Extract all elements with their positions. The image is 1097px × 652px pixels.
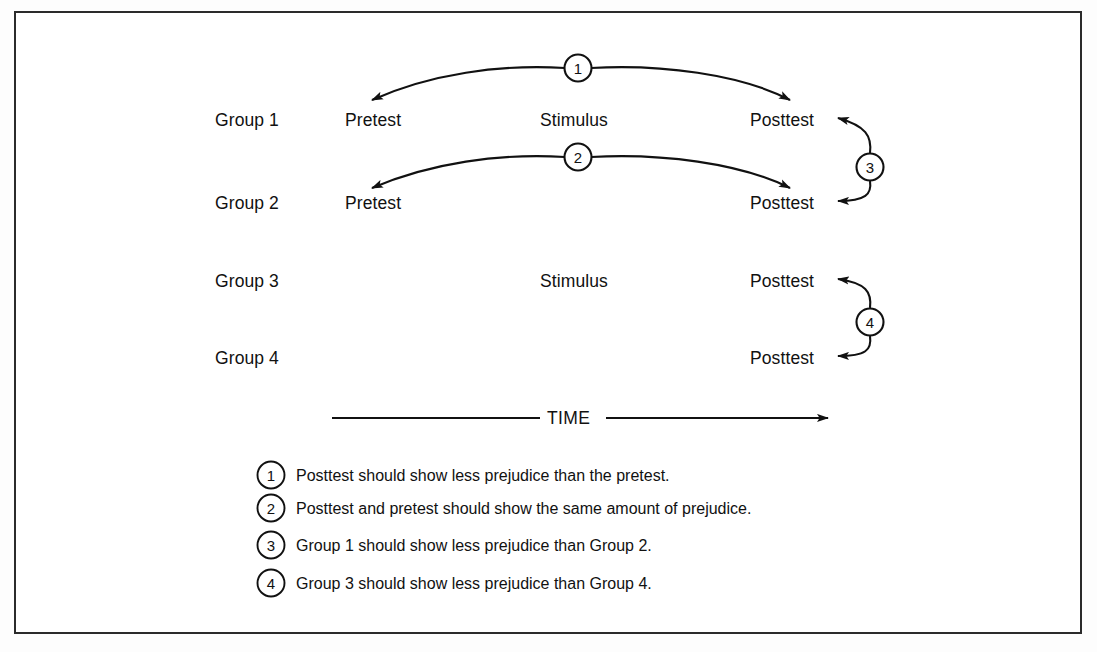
legend-text-1: Posttest should show less prejudice than…: [296, 466, 670, 485]
legend-text-3: Group 1 should show less prejudice than …: [296, 536, 652, 555]
legend-text-4: Group 3 should show less prejudice than …: [296, 574, 652, 593]
time-axis-label: TIME: [547, 408, 590, 428]
cell-group3-stimulus: Stimulus: [540, 271, 608, 291]
cell-group1-posttest: Posttest: [750, 110, 814, 130]
cell-group4-posttest: Posttest: [750, 348, 814, 368]
row-label-group-2: Group 2: [215, 193, 279, 213]
cell-group1-stimulus: Stimulus: [540, 110, 608, 130]
row-label-group-4: Group 4: [215, 348, 279, 368]
cell-group2-pretest: Pretest: [345, 193, 401, 213]
legend-text-2: Posttest and pretest should show the sam…: [296, 499, 751, 518]
row-label-group-1: Group 1: [215, 110, 279, 130]
cell-group2-posttest: Posttest: [750, 193, 814, 213]
figure-root: Group 1 Pretest Stimulus Posttest Group …: [0, 0, 1097, 652]
cell-group3-posttest: Posttest: [750, 271, 814, 291]
row-label-group-3: Group 3: [215, 271, 279, 291]
cell-group1-pretest: Pretest: [345, 110, 401, 130]
